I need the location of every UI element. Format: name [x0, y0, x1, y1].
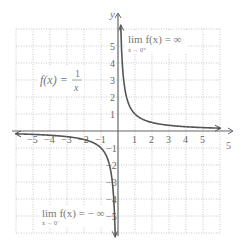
function-numerator: 1 [75, 68, 80, 79]
function-label: f(x) = 1 x [38, 65, 84, 95]
svg-text:−1: −1 [106, 143, 117, 154]
limit-negative-sub: x → 0⁻ [42, 220, 60, 226]
svg-text:3: 3 [166, 134, 171, 145]
limit-annotation-positive: lim f(x) = ∞ x → 0⁺ [126, 31, 188, 53]
svg-text:5: 5 [110, 41, 115, 52]
svg-text:2: 2 [110, 92, 115, 103]
svg-text:−5: −5 [27, 134, 38, 145]
limit-annotation-negative: lim f(x) = − ∞ x → 0⁻ [40, 205, 106, 227]
svg-text:−1: −1 [95, 134, 106, 145]
svg-text:1: 1 [132, 134, 137, 145]
y-axis-label: y [109, 8, 115, 20]
svg-text:2: 2 [149, 134, 154, 145]
svg-text:3: 3 [110, 75, 115, 86]
function-lhs: f(x) = [40, 73, 68, 87]
svg-text:−4: −4 [106, 194, 117, 205]
limit-negative-text: lim f(x) = − ∞ [42, 207, 105, 220]
svg-text:−2: −2 [106, 160, 117, 171]
limit-positive-text: lim f(x) = ∞ [128, 33, 182, 46]
svg-text:4: 4 [110, 58, 115, 69]
svg-text:1: 1 [110, 109, 115, 120]
limit-positive-sub: x → 0⁺ [128, 47, 146, 53]
x-axis-end-label: 5 [226, 140, 231, 151]
svg-text:4: 4 [183, 134, 188, 145]
function-denominator: x [73, 82, 79, 93]
svg-text:5: 5 [200, 134, 205, 145]
reciprocal-function-graph: −5−4−3−2−112345−5−4−3−2−112345 y 5 f(x) … [0, 0, 247, 251]
axes [12, 13, 233, 236]
